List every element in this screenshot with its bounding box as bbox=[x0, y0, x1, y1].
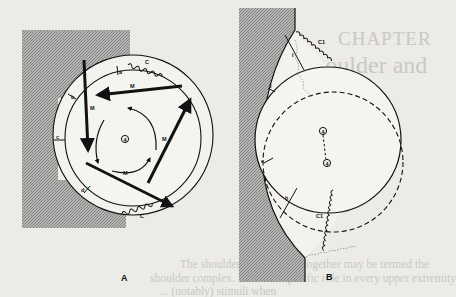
label-m-bottom: M bbox=[123, 170, 128, 176]
label-d: d bbox=[81, 187, 84, 193]
panel-label-a: A bbox=[121, 273, 128, 283]
panel-label-b: B bbox=[326, 272, 333, 282]
label-e: e bbox=[261, 158, 264, 164]
label-c1-bottom: C1 bbox=[316, 213, 323, 219]
label-c-capsule-bottom: C bbox=[140, 213, 144, 219]
label-m-top: M bbox=[130, 83, 135, 89]
label-c1-top: C1 bbox=[318, 39, 325, 45]
panel-b: 4 4 I I e h C1 C1 bbox=[239, 8, 403, 282]
label-c: c bbox=[56, 134, 59, 140]
humeral-head-circle-b bbox=[255, 67, 401, 213]
panel-a: 4 a b c d M M M M C C bbox=[22, 30, 213, 228]
label-m-left: M bbox=[90, 105, 95, 111]
label-m-right: M bbox=[162, 136, 167, 142]
label-c-capsule-top: C bbox=[145, 59, 149, 65]
